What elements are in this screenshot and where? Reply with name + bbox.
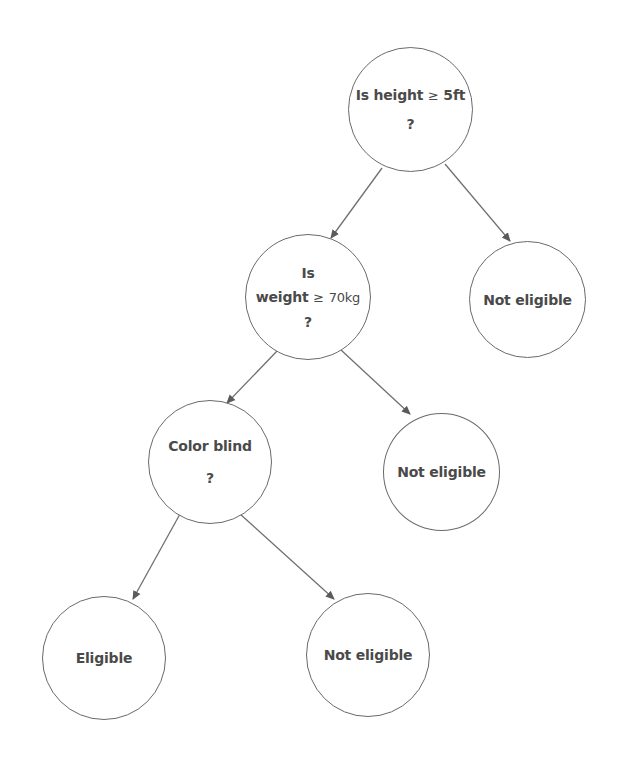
question-mark: ? — [206, 469, 214, 487]
node-not-eligible-weight: Not eligible — [383, 413, 500, 531]
threshold-value: 5ft — [443, 87, 465, 103]
question-mark: ? — [407, 115, 415, 133]
node-not-eligible-height: Not eligible — [469, 241, 586, 358]
threshold-value: 70kg — [329, 290, 361, 305]
node-text: weight ≥ 70kg — [256, 288, 360, 307]
edge-root-to-weight — [331, 168, 382, 238]
edge-color-blind-to-eligible — [133, 514, 180, 599]
edge-weight-to-not-eligible-mid — [341, 350, 410, 414]
question-mark: ? — [304, 313, 312, 331]
question-text: Color blind — [168, 437, 252, 455]
edge-root-to-not-eligible-right — [445, 164, 510, 241]
node-text: Is height ≥ 5ft — [356, 86, 466, 105]
gte-symbol: ≥ — [428, 88, 439, 103]
question-text: Is height — [356, 87, 424, 103]
node-not-eligible-color-blind: Not eligible — [306, 593, 430, 717]
weight-word: weight — [256, 289, 309, 305]
gte-symbol: ≥ — [313, 290, 324, 305]
node-height-question: Is height ≥ 5ft ? — [348, 47, 473, 172]
outcome-label: Not eligible — [324, 646, 413, 664]
node-eligible: Eligible — [42, 596, 166, 720]
edge-weight-to-color-blind — [227, 350, 278, 403]
outcome-label: Not eligible — [483, 291, 572, 309]
edge-color-blind-to-not-eligible-bottom — [240, 514, 334, 599]
outcome-label: Eligible — [76, 649, 133, 667]
outcome-label: Not eligible — [397, 463, 486, 481]
node-weight-question: Is weight ≥ 70kg ? — [245, 234, 371, 360]
node-color-blind-question: Color blind ? — [148, 400, 272, 524]
question-text: Is — [301, 264, 314, 282]
